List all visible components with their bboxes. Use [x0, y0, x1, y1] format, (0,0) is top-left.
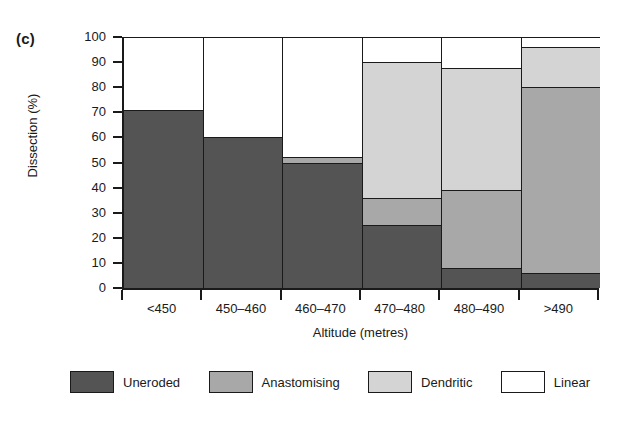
- y-axis-tick: [113, 136, 122, 138]
- x-axis-tick: [280, 290, 282, 300]
- x-axis-tick: [200, 290, 202, 300]
- legend-item[interactable]: Uneroded: [70, 371, 180, 393]
- x-axis-tick-label: >490: [519, 301, 598, 316]
- bar-segment[interactable]: [522, 47, 601, 87]
- x-axis-tick: [597, 290, 599, 300]
- x-axis-tick-label: 450–460: [201, 301, 280, 316]
- x-axis-tick-label: 470–480: [360, 301, 439, 316]
- y-axis-tick: [113, 187, 122, 189]
- y-axis-tick-label: 90: [72, 55, 106, 68]
- legend-label: Uneroded: [123, 375, 180, 390]
- bar-segment[interactable]: [442, 190, 521, 268]
- y-axis-tick: [113, 111, 122, 113]
- x-axis-tick: [121, 290, 123, 300]
- y-axis-tick: [113, 262, 122, 264]
- x-axis-title: Altitude (metres): [122, 325, 599, 340]
- plot-area: [122, 37, 600, 288]
- bar-segment[interactable]: [363, 37, 442, 62]
- y-axis-tick-label: 100: [72, 30, 106, 43]
- x-axis-tick: [438, 290, 440, 300]
- legend: UnerodedAnastomisingDendriticLinear: [70, 371, 590, 393]
- y-axis-tick-label: 30: [72, 206, 106, 219]
- legend-item[interactable]: Linear: [501, 371, 590, 393]
- y-axis-tick: [113, 86, 122, 88]
- x-axis-tick-label: <450: [122, 301, 201, 316]
- x-axis-tick: [518, 290, 520, 300]
- legend-label: Anastomising: [262, 375, 340, 390]
- y-axis-tick: [113, 237, 122, 239]
- legend-label: Linear: [554, 375, 590, 390]
- bar-segment[interactable]: [442, 268, 521, 288]
- y-axis-tick-label: 70: [72, 105, 106, 118]
- y-axis-tick-label: 50: [72, 156, 106, 169]
- bar-column[interactable]: [442, 37, 522, 288]
- legend-swatch: [501, 371, 545, 393]
- legend-swatch: [368, 371, 412, 393]
- x-axis-tick-label: 480–490: [439, 301, 518, 316]
- bar-segment[interactable]: [363, 225, 442, 288]
- bar-segment[interactable]: [283, 163, 362, 289]
- bar-segment[interactable]: [283, 37, 362, 157]
- bar-segment[interactable]: [124, 37, 203, 110]
- y-axis-tick: [113, 287, 122, 289]
- bar-segment[interactable]: [522, 273, 601, 288]
- bar-segment[interactable]: [363, 198, 442, 226]
- bar-segment[interactable]: [522, 37, 601, 47]
- bar-column[interactable]: [124, 37, 204, 288]
- y-axis-tick-label: 60: [72, 130, 106, 143]
- bar-segment[interactable]: [522, 87, 601, 273]
- y-axis-tick: [113, 212, 122, 214]
- bar-segment[interactable]: [363, 62, 442, 198]
- bar-column[interactable]: [283, 37, 363, 288]
- legend-swatch: [209, 371, 253, 393]
- y-axis-tick: [113, 162, 122, 164]
- y-axis-tick-label: 40: [72, 181, 106, 194]
- y-axis-tick: [113, 36, 122, 38]
- bar-segment[interactable]: [124, 110, 203, 288]
- legend-item[interactable]: Anastomising: [209, 371, 340, 393]
- y-axis-tick: [113, 61, 122, 63]
- bar-segment[interactable]: [204, 137, 283, 288]
- bar-column[interactable]: [522, 37, 601, 288]
- bar-column[interactable]: [204, 37, 284, 288]
- bar-segment[interactable]: [442, 37, 521, 68]
- bar-segment[interactable]: [442, 68, 521, 190]
- bar-segment[interactable]: [204, 37, 283, 137]
- legend-swatch: [70, 371, 114, 393]
- x-axis-tick-label: 460–470: [281, 301, 360, 316]
- y-axis-tick-label: 80: [72, 80, 106, 93]
- y-axis-tick-label: 20: [72, 231, 106, 244]
- x-axis-tick: [359, 290, 361, 300]
- y-axis-tick-label: 10: [72, 256, 106, 269]
- chart-figure: (c) Dissection (%) 010203040506070809010…: [0, 0, 635, 430]
- legend-item[interactable]: Dendritic: [368, 371, 472, 393]
- y-axis-tick-label: 0: [72, 281, 106, 294]
- bar-column[interactable]: [363, 37, 443, 288]
- legend-label: Dendritic: [421, 375, 472, 390]
- stacked-bars: [124, 37, 600, 288]
